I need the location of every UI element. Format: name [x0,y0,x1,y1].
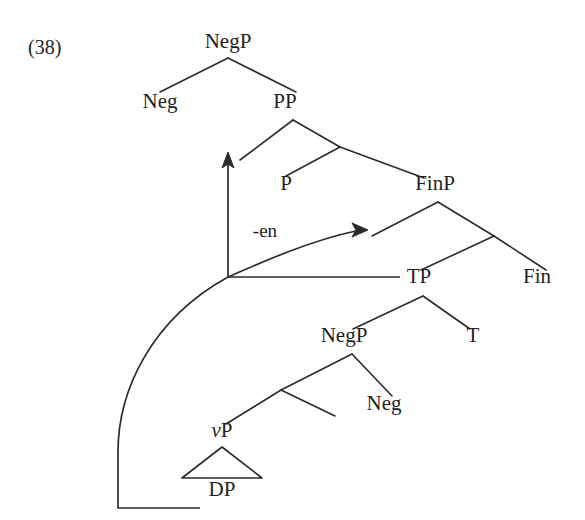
tree-branch [281,390,335,416]
node-labels: NegPNegPPPFinPTPFinNegPTNegvPDP [143,29,552,501]
tree-branch [293,120,340,147]
tree-node-negp-low: NegP [321,323,368,347]
tree-branch [286,147,340,176]
tree-branch [281,354,352,390]
tree-node-finp: FinP [415,171,455,195]
tree-branch [352,354,392,396]
example-number: (38) [28,36,61,59]
tree-branch [240,120,293,160]
tree-branch-lines [160,58,546,424]
tree-node-fin: Fin [523,264,552,288]
dp-triangle [182,447,262,478]
phrasal-movement-to-finp-spec-arrowhead [352,223,368,237]
tree-branch [228,58,296,92]
tree-branch [160,58,228,92]
dp-triangle-shape [182,447,262,478]
syntactic-tree-figure: NegPNegPPPFinPTPFinNegPTNegvPDP (38) -en [0,0,585,520]
tree-branch [372,202,438,236]
tree-branch [340,147,424,178]
tree-node-neg-top: Neg [143,89,178,113]
tree-node-dp: DP [209,477,236,501]
tree-node-pp: PP [273,89,296,113]
tree-node-t: T [467,323,480,347]
affix-label: -en [253,220,278,241]
tree-branch [423,296,470,329]
tree-node-negp-top: NegP [205,29,252,53]
tree-diagram-canvas: NegPNegPPPFinPTPFinNegPTNegvPDP (38) -en [0,0,585,520]
tree-branch [421,236,494,270]
tree-node-p: P [280,171,292,195]
tree-node-vp: vP [211,418,232,442]
tree-node-neg-low: Neg [367,391,402,415]
dp-long-movement [118,277,228,508]
tree-branch [226,390,281,424]
tree-branch [438,202,494,236]
phrasal-movement-to-finp-spec [228,231,356,277]
tree-node-tp: TP [407,264,432,288]
